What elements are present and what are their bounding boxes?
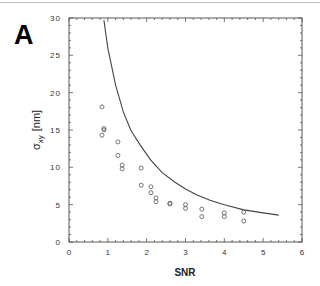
data-point-marker (242, 210, 246, 214)
data-point-marker (200, 207, 204, 211)
data-point-marker (139, 183, 143, 187)
theory-line (104, 20, 279, 215)
y-tick-label: 10 (50, 163, 61, 172)
x-tick-label: 0 (67, 248, 72, 257)
y-axis-subscript: xy (36, 135, 45, 143)
data-points (100, 105, 246, 223)
theory-curve (104, 20, 279, 215)
y-axis-title: σxy[nm] (30, 110, 45, 150)
x-tick-label: 1 (106, 248, 111, 257)
data-point-marker (200, 215, 204, 219)
data-point-marker (242, 219, 246, 223)
x-axis-title: SNR (174, 267, 196, 278)
y-tick-label: 25 (50, 51, 61, 60)
data-point-marker (116, 140, 120, 144)
x-tick-labels: 0123456 (67, 248, 305, 257)
data-point-marker (149, 191, 153, 195)
y-tick-label: 15 (50, 126, 61, 135)
y-tick-label: 0 (56, 238, 61, 247)
y-axis-unit: [nm] (30, 110, 42, 131)
y-tick-labels: 051015202530 (50, 14, 61, 247)
data-point-marker (100, 105, 104, 109)
y-tick-label: 20 (50, 89, 61, 98)
svg-text:σxy[nm]: σxy[nm] (30, 110, 45, 150)
y-tick-label: 5 (56, 201, 61, 210)
x-tick-label: 5 (261, 248, 266, 257)
data-point-marker (116, 153, 120, 157)
x-tick-label: 6 (300, 248, 305, 257)
scatter-chart: 0123456 051015202530 SNR σxy[nm] (0, 0, 320, 286)
x-tick-label: 3 (183, 248, 188, 257)
x-tick-label: 4 (222, 248, 227, 257)
data-point-marker (100, 133, 104, 137)
data-point-marker (149, 185, 153, 189)
axis-ticks (69, 18, 302, 242)
data-point-marker (139, 166, 143, 170)
y-tick-label: 30 (50, 14, 61, 23)
plot-axes (69, 18, 302, 242)
x-tick-label: 2 (144, 248, 149, 257)
plot-frame (69, 18, 302, 242)
